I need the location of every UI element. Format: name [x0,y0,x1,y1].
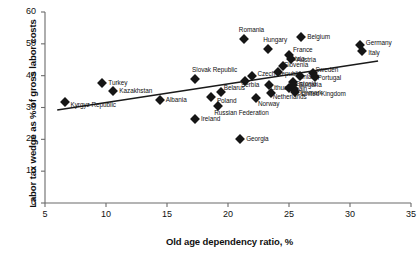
data-point-label: Slovak Republic [192,67,237,73]
data-point-label: France [293,47,313,53]
data-point-label: Germany [366,40,392,46]
data-point-label: Serbia [241,82,259,88]
data-point-label: Georgia [246,136,268,142]
y-tick-label: 60 [14,6,36,16]
data-point-label: Austria [296,57,316,63]
data-point-label: Portugal [318,75,341,81]
data-point-label: Norway [258,101,279,107]
x-tick-label: 15 [155,209,179,219]
data-point-label: Ireland [201,116,220,122]
x-tick-label: 20 [216,209,240,219]
data-point-label: Bulgaria [299,82,322,88]
data-point-label: Sweden [315,67,338,73]
x-tick-label: 25 [277,209,301,219]
data-point-label: Kazakhstan [119,88,152,94]
scatter-chart: Kyrgyz RepublicTurkeyKazakhstanAlbaniaSl… [0,0,419,256]
x-axis-title: Old age dependency ratio, % [0,236,419,247]
data-point-label: United Kingdom [301,91,346,97]
data-point-label: Turkey [108,80,127,86]
x-tick-label: 10 [94,209,118,219]
data-point-label: Hungary [263,37,287,43]
data-point-label: Russian Federation [214,110,269,116]
x-tick-label: 5 [33,209,57,219]
x-tick-label: 30 [338,209,362,219]
data-point-label: Romania [239,27,264,33]
x-tick-label: 35 [399,209,419,219]
y-axis-title: Labor tax wedge as % of gross labor cost… [27,19,38,209]
data-point-label: Belgium [307,34,330,40]
data-point-label: Albania [166,97,187,103]
data-point-label: Kyrgyz Republic [71,102,116,108]
data-point-label: Italy [368,50,379,56]
